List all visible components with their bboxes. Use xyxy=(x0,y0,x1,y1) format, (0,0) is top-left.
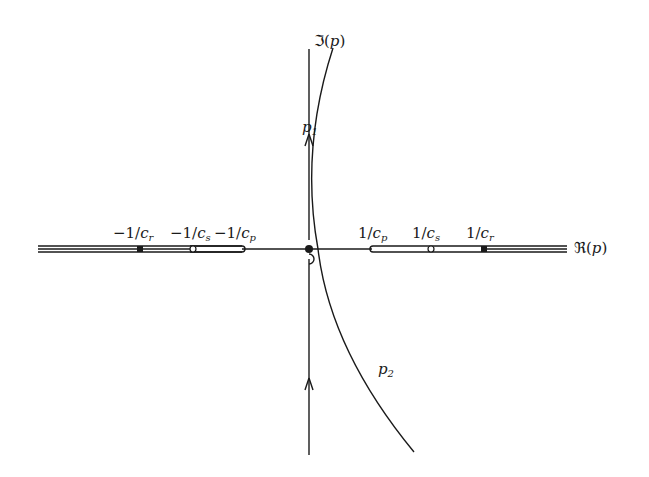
contour-label-p1: p1 xyxy=(302,120,318,137)
complex-plane-diagram xyxy=(0,0,649,477)
filled-square-marker xyxy=(137,246,143,252)
imaginary-axis-label: ℑ(p) xyxy=(314,34,345,49)
label-inv-cp: 1/cp xyxy=(358,226,387,243)
hyperbola-contour xyxy=(312,48,414,452)
label-neg-inv-cs: −1/cs xyxy=(170,226,211,243)
origin-indentation xyxy=(309,254,314,264)
open-circle-marker xyxy=(428,246,434,252)
label-inv-cr: 1/cr xyxy=(466,226,494,243)
label-neg-inv-cp: −1/cp xyxy=(214,226,256,243)
label-inv-cs: 1/cs xyxy=(412,226,440,243)
label-neg-inv-cr: −1/cr xyxy=(113,226,153,243)
origin-dot xyxy=(305,245,313,253)
contour-label-p2: p2 xyxy=(378,362,394,379)
right-branch-cut xyxy=(370,246,567,252)
open-circle-marker xyxy=(190,246,196,252)
real-axis-label: ℜ(p) xyxy=(574,241,607,256)
filled-square-marker xyxy=(481,246,487,252)
